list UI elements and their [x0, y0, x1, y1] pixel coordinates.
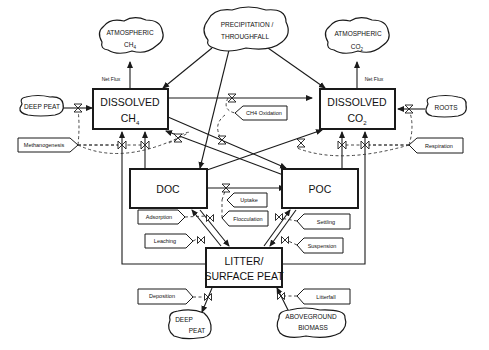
cloud-deep-peat-left: DEEP PEAT [20, 96, 63, 117]
cloud-precipitation-throughfall: PRECIPITATION / THROUGHFALL [204, 7, 288, 51]
cloud-roots: ROOTS [426, 96, 466, 118]
process-flocculation: Flocculation [222, 211, 268, 226]
dissolved-ch4-label: DISSOLVED [100, 96, 160, 108]
process-deposition: Deposition [138, 289, 193, 304]
poc-label: POC [309, 183, 332, 195]
respiration-label: Respiration [425, 143, 453, 149]
cloud-deep-peat-bottom: DEEP PEAT [169, 310, 211, 339]
net-flux-co2-label: Net Flux [365, 76, 384, 82]
deposition-label: Deposition [149, 293, 175, 299]
atmospheric-ch4-label: ATMOSPHERIC [106, 29, 153, 36]
suspension-label: Suspension [308, 243, 337, 249]
adsorption-label: Adsorption [146, 214, 172, 220]
atmospheric-co2-label: ATMOSPHERIC [334, 30, 381, 37]
litter-label-line2: SURFACE PEAT [204, 270, 284, 282]
stock-poc: POC [282, 169, 358, 208]
process-uptake: Uptake [227, 193, 267, 207]
process-ch4-oxidation: CH4 Oxidation [235, 106, 287, 120]
stock-dissolved-co2: DISSOLVED CO2 [320, 89, 395, 129]
ch4-oxidation-label: CH4 Oxidation [246, 110, 282, 116]
deep-peat-bottom-line2: PEAT [189, 327, 206, 334]
dissolved-co2-label: DISSOLVED [327, 96, 387, 108]
methanogenesis-label: Methanogenesis [24, 142, 65, 148]
process-suspension: Suspension [297, 238, 343, 253]
litter-label-line1: LITTER/ [224, 255, 263, 267]
deep-peat-left-label: DEEP PEAT [24, 103, 60, 110]
process-adsorption: Adsorption [138, 210, 185, 224]
process-leaching: Leaching [145, 234, 193, 248]
cloud-atmospheric-co2: ATMOSPHERIC CO2 [325, 18, 389, 54]
aboveground-biomass-line2: BIOMASS [298, 324, 328, 331]
carbon-flow-diagram: DISSOLVED CH4 DISSOLVED CO2 DOC POC LITT… [0, 0, 489, 350]
stock-litter-surface-peat: LITTER/ SURFACE PEAT [204, 248, 284, 287]
doc-label: DOC [156, 183, 180, 195]
atmospheric-ch4-formula: CH [124, 41, 134, 48]
aboveground-biomass-line1: ABOVEGROUND [285, 313, 337, 320]
process-settling: Settling [297, 214, 350, 229]
deep-peat-bottom-line1: DEEP [175, 316, 193, 323]
stock-doc: DOC [130, 169, 207, 208]
dissolved-co2-formula: CO [347, 112, 363, 124]
process-litterfall: Litterfall [297, 289, 350, 304]
leaching-label: Leaching [154, 238, 176, 244]
precipitation-label-line2: THROUGHFALL [221, 33, 269, 40]
settling-label: Settling [317, 219, 335, 225]
litterfall-label: Litterfall [316, 294, 335, 300]
stock-dissolved-ch4: DISSOLVED CH4 [93, 89, 168, 129]
dissolved-ch4-formula: CH [121, 112, 136, 124]
process-respiration: Respiration [409, 138, 463, 153]
process-methanogenesis: Methanogenesis [18, 138, 78, 152]
uptake-label: Uptake [240, 197, 257, 203]
cloud-aboveground-biomass: ABOVEGROUND BIOMASS [277, 308, 346, 337]
precipitation-label-line1: PRECIPITATION / [221, 21, 274, 28]
roots-label: ROOTS [434, 104, 458, 111]
net-flux-ch4-label: Net Flux [102, 76, 121, 82]
flocculation-label: Flocculation [233, 216, 262, 222]
cloud-atmospheric-ch4: ATMOSPHERIC CH4 [99, 18, 163, 54]
atmospheric-co2-formula: CO [351, 43, 361, 50]
